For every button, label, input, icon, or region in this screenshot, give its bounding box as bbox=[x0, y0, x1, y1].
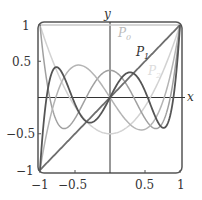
y-axis-label: y bbox=[103, 7, 111, 21]
ytick-1: 1 bbox=[22, 19, 30, 33]
xtick-0.5: 0.5 bbox=[135, 178, 154, 192]
label-p1: P1 bbox=[135, 45, 149, 61]
xtick-neg1: −1 bbox=[31, 178, 49, 192]
legendre-plot: x y P0 P1 P2 1 0.5 −0.5 −1 −1 −0.5 0.5 1 bbox=[0, 0, 202, 200]
label-p2: P2 bbox=[147, 64, 161, 80]
x-axis-label: x bbox=[187, 90, 194, 104]
label-p0: P0 bbox=[117, 26, 131, 42]
ytick-neg0.5: −0.5 bbox=[6, 127, 35, 141]
xtick-neg0.5: −0.5 bbox=[58, 178, 87, 192]
ytick-neg1: −1 bbox=[16, 164, 34, 178]
xtick-1: 1 bbox=[177, 178, 185, 192]
ytick-0.5: 0.5 bbox=[12, 55, 31, 69]
